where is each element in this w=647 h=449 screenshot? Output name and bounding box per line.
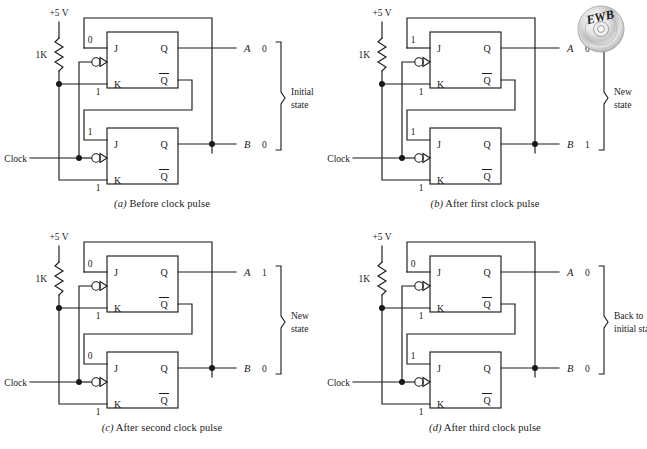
top-q-pin: Q xyxy=(160,43,168,54)
output-b-label: B xyxy=(567,139,574,150)
output-a-label: A xyxy=(243,43,251,54)
output-a-value: 0 xyxy=(262,44,267,54)
bottom-j-pin: J xyxy=(437,363,441,374)
bottom-k-pin: K xyxy=(114,175,122,186)
top-k-pin: K xyxy=(437,79,445,90)
top-qbar-pin: Q xyxy=(160,299,168,310)
bottom-j-pin: J xyxy=(437,139,441,150)
bottom-q-pin: Q xyxy=(160,139,168,150)
caption-letter: (d) xyxy=(429,422,442,433)
clock-label: Clock xyxy=(327,378,350,388)
ewb-cd-logo: EWB xyxy=(576,4,626,54)
bottom-qbar-pin: Q xyxy=(483,395,491,406)
bottom-j-value: 0 xyxy=(88,351,93,361)
output-b-label: B xyxy=(244,139,251,150)
state-note-line2: state xyxy=(614,100,631,110)
output-b-value: 0 xyxy=(585,364,590,374)
bottom-qbar-pin: Q xyxy=(160,171,168,182)
resistor-label: 1K xyxy=(358,274,370,284)
output-b-label: B xyxy=(244,363,251,374)
top-q-pin: Q xyxy=(483,43,491,54)
bottom-j-pin: J xyxy=(114,139,118,150)
top-k-value: 1 xyxy=(419,311,424,321)
supply-label: +5 V xyxy=(372,8,391,18)
top-k-pin: K xyxy=(437,303,445,314)
state-note-line1: Back to xyxy=(614,311,644,321)
state-note-line1: New xyxy=(614,87,632,97)
state-note-line2: state xyxy=(291,100,308,110)
supply-label: +5 V xyxy=(49,8,68,18)
bottom-q-pin: Q xyxy=(160,363,168,374)
supply-label: +5 V xyxy=(372,232,391,242)
output-b-value: 0 xyxy=(262,140,267,150)
bottom-k-pin: K xyxy=(437,175,445,186)
top-qbar-pin: Q xyxy=(483,299,491,310)
bottom-q-pin: Q xyxy=(483,139,491,150)
panel-caption: (d) After third clock pulse xyxy=(323,422,647,433)
top-k-pin: K xyxy=(114,303,122,314)
top-k-pin: K xyxy=(114,79,122,90)
top-j-pin: J xyxy=(114,267,118,278)
bottom-k-pin: K xyxy=(437,399,445,410)
state-note-line1: New xyxy=(291,311,309,321)
caption-letter: (c) xyxy=(102,422,114,433)
resistor-label: 1K xyxy=(35,50,47,60)
top-k-value: 1 xyxy=(419,87,424,97)
panel-c: J K Q Q J K Q Q 0 1 0 1 +5 V 1K Clock A … xyxy=(0,224,324,448)
state-note-line2: initial state xyxy=(614,324,647,334)
resistor-label: 1K xyxy=(35,274,47,284)
clock-label: Clock xyxy=(4,378,27,388)
panel-caption: (a) Before clock pulse xyxy=(0,198,324,209)
bottom-k-value: 1 xyxy=(419,183,424,193)
clock-label: Clock xyxy=(327,154,350,164)
caption-letter: (a) xyxy=(114,198,127,209)
output-a-label: A xyxy=(566,43,574,54)
cd-hole xyxy=(598,26,605,33)
resistor-label: 1K xyxy=(358,50,370,60)
top-q-pin: Q xyxy=(483,267,491,278)
top-j-value: 0 xyxy=(411,259,416,269)
panel-d: J K Q Q J K Q Q 0 1 1 1 +5 V 1K Clock A … xyxy=(323,224,647,448)
bottom-j-pin: J xyxy=(114,363,118,374)
panel-caption: (b) After first clock pulse xyxy=(323,198,647,209)
top-j-pin: J xyxy=(437,267,441,278)
panel-a: J K Q Q J K Q Q 0 1 1 1 +5 V 1K Clock A … xyxy=(0,0,324,224)
output-a-label: A xyxy=(243,267,251,278)
bottom-j-value: 1 xyxy=(411,351,416,361)
top-j-pin: J xyxy=(114,43,118,54)
output-b-value: 1 xyxy=(585,140,590,150)
bottom-k-pin: K xyxy=(114,399,122,410)
bottom-q-pin: Q xyxy=(483,363,491,374)
panel-caption: (c) After second clock pulse xyxy=(0,422,324,433)
top-k-value: 1 xyxy=(96,311,101,321)
bottom-j-value: 1 xyxy=(411,127,416,137)
top-j-pin: J xyxy=(437,43,441,54)
output-b-label: B xyxy=(567,363,574,374)
clock-label: Clock xyxy=(4,154,27,164)
output-a-label: A xyxy=(566,267,574,278)
top-qbar-pin: Q xyxy=(160,75,168,86)
state-note-line2: state xyxy=(291,324,308,334)
supply-label: +5 V xyxy=(49,232,68,242)
output-a-value: 1 xyxy=(262,268,267,278)
bottom-qbar-pin: Q xyxy=(160,395,168,406)
top-q-pin: Q xyxy=(160,267,168,278)
bottom-k-value: 1 xyxy=(96,183,101,193)
output-b-value: 0 xyxy=(262,364,267,374)
caption-text: After second clock pulse xyxy=(116,422,223,433)
output-a-value: 0 xyxy=(585,268,590,278)
figure-sheet: J K Q Q J K Q Q 0 1 1 1 +5 V 1K Clock A … xyxy=(0,0,647,449)
top-k-value: 1 xyxy=(96,87,101,97)
top-j-value: 1 xyxy=(411,35,416,45)
caption-text: After first clock pulse xyxy=(445,198,539,209)
top-qbar-pin: Q xyxy=(483,75,491,86)
bottom-j-value: 1 xyxy=(88,127,93,137)
caption-text: After third clock pulse xyxy=(444,422,541,433)
caption-text: Before clock pulse xyxy=(129,198,210,209)
bottom-k-value: 1 xyxy=(419,407,424,417)
top-j-value: 0 xyxy=(88,35,93,45)
state-note-line1: Initial xyxy=(291,87,314,97)
caption-letter: (b) xyxy=(431,198,444,209)
bottom-k-value: 1 xyxy=(96,407,101,417)
top-j-value: 0 xyxy=(88,259,93,269)
